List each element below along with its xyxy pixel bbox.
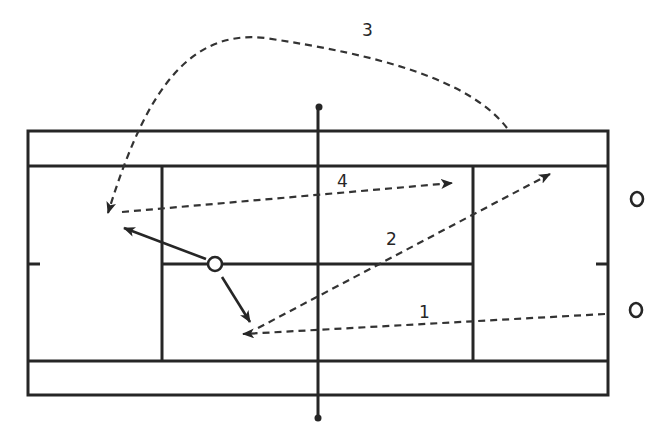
player-move-arrow-back bbox=[124, 228, 206, 259]
shot-label-4: 4 bbox=[337, 171, 348, 191]
tennis-court-diagram: 1 2 3 4 bbox=[0, 0, 668, 443]
shot-label-1: 1 bbox=[419, 302, 430, 322]
shot-4-path bbox=[122, 183, 452, 212]
shot-label-3: 3 bbox=[362, 20, 373, 40]
net-post-bottom-icon bbox=[315, 415, 322, 422]
court-svg: 1 2 3 4 bbox=[0, 0, 668, 443]
player-net-icon bbox=[208, 257, 222, 271]
shot-label-2: 2 bbox=[386, 229, 397, 249]
player-opponent-2-icon bbox=[630, 303, 642, 317]
net-post-top-icon bbox=[316, 104, 323, 111]
player-opponent-1-icon bbox=[631, 192, 643, 206]
player-move-arrow-forward bbox=[222, 277, 250, 322]
shot-3-lob-path bbox=[108, 37, 507, 213]
